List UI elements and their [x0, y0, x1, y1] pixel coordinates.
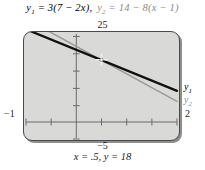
coordinate-readout: x = .5, y = 18: [0, 151, 205, 162]
equation-y1-body: = 3(7 − 2x),: [35, 2, 92, 13]
curve-label-y2-subscript: 2: [188, 100, 192, 108]
graph-plot: [24, 32, 179, 140]
curve-label-y2: y2: [184, 94, 192, 108]
intersection-point: [100, 58, 103, 61]
equation-y2: y2 = 14 − 8(x − 1): [97, 2, 178, 13]
graph-title: y1 = 3(7 − 2x),y2 = 14 − 8(x − 1): [0, 2, 205, 16]
equation-y2-body: = 14 − 8(x − 1): [106, 2, 179, 13]
calculator-screen[interactable]: [23, 31, 180, 141]
x-max-label: 2: [185, 108, 190, 119]
line-y2: [26, 32, 177, 101]
curve-label-y1: y1: [184, 81, 192, 95]
y-min-label: −5: [0, 140, 205, 151]
equation-y1: y1 = 3(7 − 2x),: [26, 2, 92, 13]
x-min-label: −1: [4, 108, 15, 119]
plot-area[interactable]: [24, 32, 179, 140]
y-max-label: 25: [0, 19, 205, 30]
